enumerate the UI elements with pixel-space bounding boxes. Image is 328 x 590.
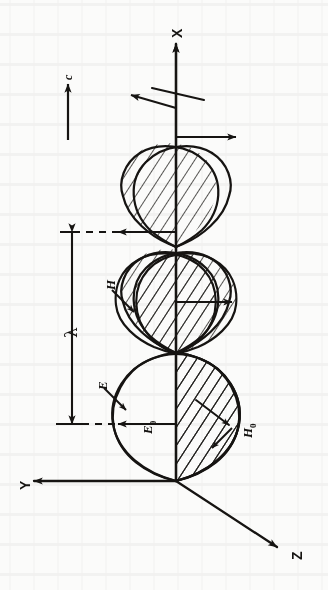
- electric-amplitude-symbol: E: [140, 425, 155, 434]
- electric-field-label: E: [96, 381, 109, 390]
- e0-vector-high: [131, 95, 176, 108]
- e-half-1: [112, 353, 176, 481]
- axis-label-y: Y: [18, 481, 32, 490]
- axis-tick-mark: [152, 88, 204, 100]
- magnetic-amplitude-label: H0: [241, 423, 258, 438]
- electromagnetic-wave-figure: X Y Z c λ H E E0 H0: [0, 0, 328, 590]
- wave-drawing: [0, 0, 328, 590]
- axis-label-z: Z: [290, 551, 304, 560]
- wavelength-label: λ: [63, 327, 80, 338]
- magnetic-amplitude-symbol: H: [240, 428, 255, 438]
- magnetic-amplitude-subscript: 0: [248, 423, 258, 428]
- propagation-speed-label: c: [62, 75, 74, 80]
- electric-amplitude-label: E0: [141, 421, 158, 434]
- e-leader-arrow: [104, 388, 126, 410]
- e-wave-lobe-1: [113, 354, 176, 481]
- magnetic-field-label: H: [104, 280, 117, 290]
- axis-label-x: X: [170, 29, 184, 38]
- axis-z-line: [176, 481, 277, 547]
- electric-amplitude-subscript: 0: [148, 421, 158, 426]
